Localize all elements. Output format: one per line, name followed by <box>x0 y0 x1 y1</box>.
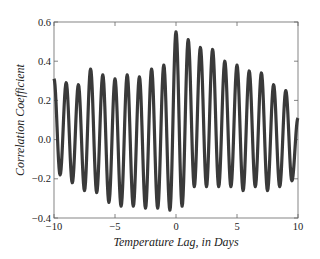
y-tick-label: 0.4 <box>38 56 52 67</box>
y-tick-label: 0.2 <box>38 95 51 106</box>
x-tick-label: −10 <box>46 221 62 232</box>
x-axis-title: Temperature Lag, in Days <box>113 235 238 249</box>
y-axis-title: Correlation Coefficient <box>13 63 27 176</box>
x-tick-label: 10 <box>293 221 304 232</box>
x-tick-label: 0 <box>173 221 178 232</box>
correlation-series-line <box>54 32 298 210</box>
x-tick-label: 5 <box>234 221 239 232</box>
y-tick-label: 0.0 <box>38 134 51 145</box>
x-tick-label: −5 <box>109 221 120 232</box>
y-tick-label: −0.2 <box>32 173 51 184</box>
chart: −0.4−0.20.00.20.40.6 −10−50510 Temperatu… <box>0 0 320 259</box>
y-tick-label: 0.6 <box>38 17 51 28</box>
